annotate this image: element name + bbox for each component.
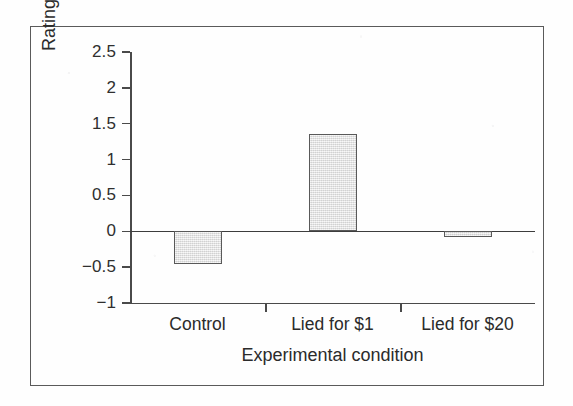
x-axis-tick-mark (400, 303, 402, 312)
x-category-axis-line (130, 303, 535, 305)
bar-lied-for-20 (444, 231, 492, 237)
x-axis-category-label: Control (130, 314, 265, 334)
y-axis-tick-label: 2 (70, 79, 116, 96)
y-axis-tick-label: −1 (70, 294, 116, 311)
y-axis-tick-mark (122, 231, 130, 233)
y-axis-tick-label: 2.5 (70, 43, 116, 60)
y-axis-tick-label: 1 (70, 151, 116, 168)
y-axis-tick-label: 1.5 (70, 115, 116, 132)
x-axis-title: Experimental condition (130, 345, 535, 366)
x-axis-tick-mark (265, 303, 267, 312)
y-axis-tick-label: 0.5 (70, 186, 116, 203)
figure-root: 2.521.510.50−0.5−1 ControlLied for $1Lie… (0, 0, 573, 406)
y-axis-tick-mark (122, 195, 130, 197)
y-axis-tick-mark (122, 159, 130, 161)
y-axis-tick-mark (122, 123, 130, 125)
bar-lied-for-1 (309, 134, 357, 231)
y-axis-tick-label: −0.5 (70, 258, 116, 275)
y-axis-tick-label: 0 (70, 222, 116, 239)
y-axis-tick-mark (122, 266, 130, 268)
y-axis-title: Rating of task enjoyment (36, 0, 62, 78)
x-axis-category-label: Lied for $1 (265, 314, 400, 334)
y-axis-tick-mark (122, 51, 130, 53)
bar-control (174, 231, 222, 263)
bar-chart-plot-area: 2.521.510.50−0.5−1 ControlLied for $1Lie… (0, 0, 573, 406)
y-axis-tick-mark (122, 302, 130, 304)
x-axis-category-label: Lied for $20 (400, 314, 535, 334)
y-axis-tick-mark (122, 87, 130, 89)
y-axis-line (130, 52, 132, 304)
